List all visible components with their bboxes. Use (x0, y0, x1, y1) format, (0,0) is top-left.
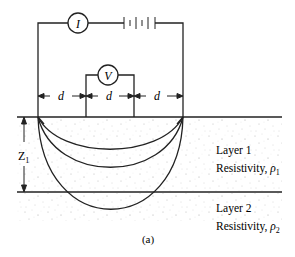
spacing-label-2: d (106, 89, 113, 103)
spacing-label-3: d (154, 89, 161, 103)
spacing-label-1: d (58, 89, 65, 103)
layer-1-name: Layer 1 (216, 144, 252, 157)
layer-2-name: Layer 2 (216, 202, 252, 215)
battery-icon (124, 17, 155, 29)
layer-2-resistivity: Resistivity, ρ2 (216, 220, 280, 235)
figure-caption: (a) (142, 233, 155, 246)
resistivity-diagram: I V d d d Z1 Layer 1 Resistivity, ρ1 Lay… (0, 0, 295, 257)
